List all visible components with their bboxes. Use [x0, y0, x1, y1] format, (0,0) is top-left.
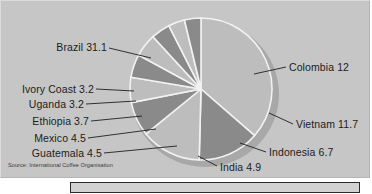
label-indonesia: Indonesia 6.7	[269, 146, 333, 158]
label-india: India 4.9	[220, 161, 261, 173]
caption-box	[70, 182, 360, 193]
label-mexico: Mexico 4.5	[1, 132, 86, 144]
label-brazil: Brazil 31.1	[1, 41, 107, 53]
label-ivory-coast: Ivory Coast 3.2	[1, 83, 94, 95]
leader-ivorycoast	[96, 89, 134, 91]
leader-uganda	[86, 101, 136, 104]
coffee-production-pie-figure: Brazil 31.1 Colombia 12 Vietnam 11.7 Ind…	[0, 0, 372, 194]
source-note: Source: International Coffee Organisatio…	[8, 162, 113, 168]
label-guatemala: Guatemala 4.5	[1, 147, 102, 159]
label-colombia: Colombia 12	[289, 61, 349, 73]
pie	[130, 18, 272, 160]
label-uganda: Uganda 3.2	[1, 98, 84, 110]
label-vietnam: Vietnam 11.7	[296, 118, 358, 130]
label-ethiopia: Ethiopia 3.7	[1, 115, 89, 127]
chart-panel: Brazil 31.1 Colombia 12 Vietnam 11.7 Ind…	[0, 0, 370, 178]
leader-ethiopia	[91, 116, 142, 121]
